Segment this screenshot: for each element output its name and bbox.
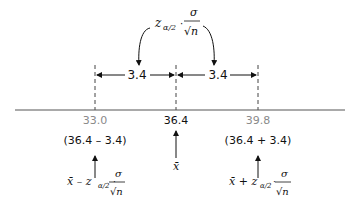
svg-text:3.4: 3.4	[127, 68, 146, 82]
upper-expression: (36.4 + 3.4)	[225, 134, 292, 147]
svg-text:x̄ – z: x̄ – z	[67, 175, 92, 188]
left-curved-arrow	[139, 28, 150, 65]
svg-text:σ: σ	[281, 168, 289, 179]
lower-bound-formula: x̄ – z α/2 · σ √n	[67, 168, 125, 197]
width-arrow-left: 3.4	[96, 68, 175, 82]
svg-text:√n: √n	[110, 186, 123, 197]
svg-text:√n: √n	[184, 25, 198, 38]
confidence-interval-diagram: z α/2 · σ √n 3.4 3.4 33.0 36.4 39.8 (36.…	[0, 0, 345, 212]
svg-text:σ: σ	[115, 168, 123, 179]
right-curved-arrow	[203, 26, 214, 65]
tick-label-center: 36.4	[164, 114, 189, 127]
svg-text:z: z	[154, 16, 162, 30]
svg-text:√n: √n	[276, 186, 289, 197]
top-margin-formula: z α/2 · σ √n	[154, 6, 200, 38]
tick-label-upper: 39.8	[246, 114, 271, 127]
lower-expression: (36.4 – 3.4)	[63, 134, 126, 147]
svg-text:σ: σ	[190, 6, 198, 19]
xbar-label: x̄	[173, 160, 180, 173]
svg-text:·: ·	[180, 18, 183, 29]
tick-label-lower: 33.0	[83, 114, 108, 127]
svg-text:3.4: 3.4	[208, 68, 227, 82]
svg-text:α/2: α/2	[260, 182, 272, 190]
upper-bound-formula: x̄ + z α/2 · σ √n	[229, 168, 291, 197]
svg-text:α/2: α/2	[98, 182, 110, 190]
svg-text:α/2: α/2	[163, 23, 176, 32]
svg-text:x̄ + z: x̄ + z	[229, 175, 257, 188]
width-arrow-right: 3.4	[177, 68, 257, 82]
